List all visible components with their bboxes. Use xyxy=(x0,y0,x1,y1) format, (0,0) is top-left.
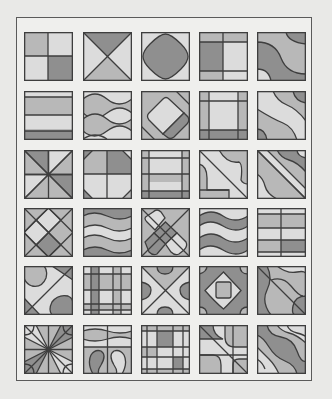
pattern-graphic xyxy=(199,208,248,257)
pattern-tile-diagonal-waves xyxy=(257,91,306,140)
pattern-tile-diagonal-blobs xyxy=(24,266,73,315)
pattern-tile-concentric-rounded-squares xyxy=(199,266,248,315)
pattern-graphic xyxy=(199,325,248,374)
pattern-graphic xyxy=(83,266,132,315)
pattern-graphic xyxy=(83,32,132,81)
pattern-graphic xyxy=(257,325,306,374)
pattern-tile-wavy-lens-bands xyxy=(199,208,248,257)
pattern-graphic xyxy=(199,32,248,81)
pattern-tile-diagonal-wavy-overlap xyxy=(257,266,306,315)
pattern-tile-four-quadrants xyxy=(24,32,73,81)
pattern-graphic xyxy=(257,208,306,257)
pattern-graphic xyxy=(141,91,190,140)
pattern-tile-wavy-horizontal xyxy=(83,91,132,140)
pattern-tile-x-diagonals xyxy=(83,32,132,81)
pattern-graphic xyxy=(141,266,190,315)
pattern-tile-tartan-grid xyxy=(83,266,132,315)
pattern-tile-horizontal-bands xyxy=(24,91,73,140)
pattern-graphic xyxy=(24,208,73,257)
pattern-tile-double-border-grid xyxy=(141,150,190,199)
pattern-graphic xyxy=(257,150,306,199)
pattern-tile-diagonal-with-curved-corners xyxy=(199,150,248,199)
pattern-tile-dense-plaid xyxy=(141,325,190,374)
pattern-graphic xyxy=(141,32,190,81)
pattern-graphic xyxy=(141,325,190,374)
pattern-graphic xyxy=(141,150,190,199)
pattern-tile-diagonal-grid-curves xyxy=(199,325,248,374)
pattern-tile-diamond-lattice xyxy=(24,208,73,257)
pattern-graphic xyxy=(257,91,306,140)
pattern-tile-rotated-rounded-square xyxy=(141,91,190,140)
pattern-tile-rounded-diamond-lattice xyxy=(141,208,190,257)
pattern-graphic xyxy=(199,150,248,199)
pattern-tile-eight-wedges xyxy=(24,150,73,199)
pattern-tile-star-with-corner-arcs xyxy=(24,325,73,374)
pattern-graphic xyxy=(24,150,73,199)
pattern-graphic xyxy=(141,208,190,257)
pattern-graphic xyxy=(24,32,73,81)
pattern-tile-s-curve-bands xyxy=(257,32,306,81)
pattern-graphic xyxy=(83,208,132,257)
pattern-tile-plaid-blocks xyxy=(257,208,306,257)
pattern-graphic xyxy=(257,32,306,81)
pattern-tile-border-grid xyxy=(199,91,248,140)
pattern-tile-wavy-stripes xyxy=(83,208,132,257)
pattern-graphic xyxy=(257,266,306,315)
pattern-graphic xyxy=(199,266,248,315)
pattern-graphic xyxy=(24,266,73,315)
pattern-graphic xyxy=(83,150,132,199)
pattern-graphic xyxy=(24,325,73,374)
pattern-tile-diagonal-wavy-bands xyxy=(257,150,306,199)
pattern-tile-cross-with-corner-cuts xyxy=(83,150,132,199)
pattern-graphic xyxy=(83,325,132,374)
pattern-tile-diagonal-wave-stripes xyxy=(257,325,306,374)
pattern-graphic xyxy=(199,91,248,140)
pattern-graphic xyxy=(24,91,73,140)
pattern-tile-x-with-side-arcs xyxy=(141,266,190,315)
pattern-tile-offset-grid xyxy=(199,32,248,81)
pattern-tile-mirrored-loops xyxy=(83,325,132,374)
pattern-graphic xyxy=(83,91,132,140)
pattern-tile-rounded-diamond xyxy=(141,32,190,81)
